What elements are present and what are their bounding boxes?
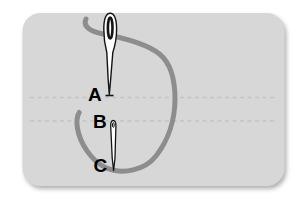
needle-eye	[112, 123, 114, 128]
stitch-diagram: A B C	[0, 0, 303, 199]
label-point-a: A	[88, 84, 102, 105]
illustration-canvas: A B C	[0, 0, 303, 199]
label-point-c: C	[94, 155, 108, 176]
needle-eye	[108, 18, 113, 39]
label-point-b: B	[93, 111, 107, 132]
